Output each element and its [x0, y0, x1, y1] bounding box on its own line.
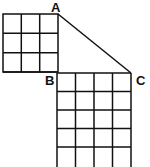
segment-ac — [58, 14, 131, 73]
label-b: B — [45, 73, 54, 88]
label-a: A — [51, 0, 61, 15]
label-c: C — [136, 73, 146, 88]
bottom-square-grid — [57, 73, 131, 167]
top-square-grid — [3, 14, 58, 72]
geometry-diagram: A B C — [0, 0, 150, 167]
